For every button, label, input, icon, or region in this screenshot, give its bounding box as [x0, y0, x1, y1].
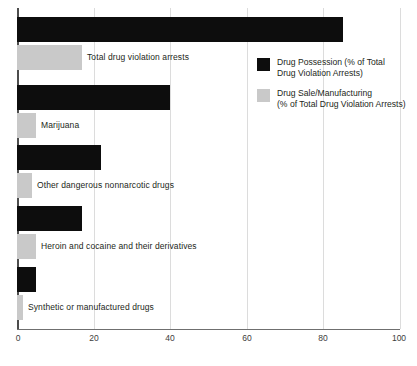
bar-possession-0[interactable]: [17, 17, 343, 42]
bar-sale-3[interactable]: [17, 234, 36, 259]
category-label-1: Marijuana: [41, 113, 79, 138]
legend-item-possession[interactable]: Drug Possession (% of Total Drug Violati…: [257, 57, 415, 79]
bar-sale-2[interactable]: [17, 173, 32, 198]
legend-swatch-icon-sale: [257, 89, 270, 102]
category-label-0: Total drug violation arrests: [87, 45, 189, 70]
legend-item-sale[interactable]: Drug Sale/Manufacturing (% of Total Drug…: [257, 88, 415, 110]
legend-label-possession: Drug Possession (% of Total Drug Violati…: [277, 57, 385, 79]
x-axis-line: [17, 329, 400, 330]
bar-sale-4[interactable]: [17, 295, 23, 320]
bar-possession-1[interactable]: [17, 85, 170, 110]
x-tick-0: 0: [16, 333, 21, 343]
category-label-2: Other dangerous nonnarcotic drugs: [37, 173, 174, 198]
legend-label-sale: Drug Sale/Manufacturing (% of Total Drug…: [277, 88, 406, 110]
x-tick-100: 100: [392, 333, 406, 343]
category-label-3: Heroin and cocaine and their derivatives: [41, 234, 197, 259]
x-tick-20: 20: [89, 333, 98, 343]
bar-possession-4[interactable]: [17, 267, 36, 292]
bar-possession-3[interactable]: [17, 206, 82, 231]
bar-possession-2[interactable]: [17, 145, 101, 170]
x-tick-80: 80: [318, 333, 327, 343]
x-tick-40: 40: [165, 333, 174, 343]
chart-legend: Drug Possession (% of Total Drug Violati…: [257, 57, 415, 119]
bar-chart: Total drug violation arrests Marijuana O…: [0, 0, 417, 366]
legend-swatch-icon-possession: [257, 58, 270, 71]
x-tick-60: 60: [242, 333, 251, 343]
bar-sale-1[interactable]: [17, 113, 36, 138]
category-label-4: Synthetic or manufactured drugs: [28, 295, 154, 320]
gridline-60: [247, 8, 248, 329]
bar-sale-0[interactable]: [17, 45, 82, 70]
